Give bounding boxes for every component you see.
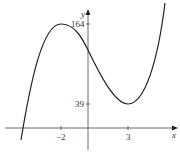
x-tick-label-neg2: −2 (56, 133, 66, 142)
cubic-graph (0, 0, 180, 154)
y-axis-label: y (81, 10, 85, 19)
x-axis-label: x (172, 131, 176, 140)
y-tick-label-164: 164 (71, 20, 85, 29)
x-tick-label-3: 3 (126, 133, 131, 142)
y-axis-arrow-icon (86, 9, 91, 15)
y-tick-label-39: 39 (75, 100, 84, 109)
cubic-curve (21, 3, 165, 140)
